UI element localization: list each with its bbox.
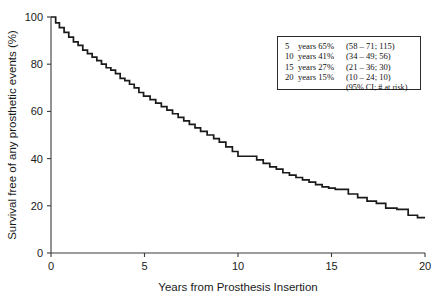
legend-years-value: 5: [285, 41, 298, 51]
legend-ci-value: (10 – 24; 10): [346, 72, 391, 82]
x-axis-title: Years from Prosthesis Insertion: [158, 281, 317, 293]
x-tick-label: 10: [232, 260, 244, 272]
y-tick-label: 80: [31, 58, 43, 70]
legend-row: 5 years 65% (58 – 71; 115): [285, 41, 420, 51]
legend-box: 5 years 65% (58 – 71; 115) 10 years 41% …: [277, 36, 421, 90]
legend-row: 15 years 27% (21 – 36; 30): [285, 62, 420, 72]
legend-years-label: years 41%: [298, 51, 346, 61]
y-tick-label: 100: [25, 11, 43, 23]
legend-row: 10 years 41% (34 – 49; 56): [285, 51, 420, 61]
legend-years-value: 10: [285, 51, 298, 61]
x-tick-label: 0: [48, 260, 54, 272]
y-tick-label: 20: [31, 200, 43, 212]
x-tick-label: 5: [141, 260, 147, 272]
legend-years-label: years 15%: [298, 72, 346, 82]
y-tick-label: 0: [37, 247, 43, 259]
y-axis-title: Survival free of any prosthetic events (…: [6, 30, 18, 240]
legend-ci-value: (58 – 71; 115): [346, 41, 395, 51]
x-tick-label: 20: [419, 260, 431, 272]
legend-years-label: years 65%: [298, 41, 346, 51]
y-tick-label: 40: [31, 153, 43, 165]
x-tick-label: 15: [325, 260, 337, 272]
legend-footnote: (95% CI; # at risk): [285, 83, 420, 93]
legend-row: 20 years 15% (10 – 24; 10): [285, 72, 420, 82]
legend-ci-value: (34 – 49; 56): [346, 51, 391, 61]
legend-ci-value: (21 – 36; 30): [346, 62, 391, 72]
legend-years-value: 15: [285, 62, 298, 72]
survival-curve-figure: 02040608010005101520Years from Prosthesi…: [0, 0, 437, 295]
legend-years-value: 20: [285, 72, 298, 82]
y-tick-label: 60: [31, 105, 43, 117]
legend-years-label: years 27%: [298, 62, 346, 72]
